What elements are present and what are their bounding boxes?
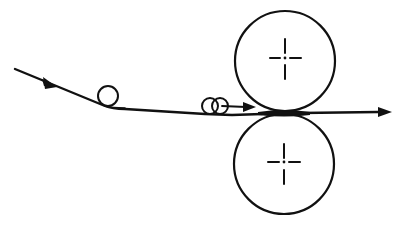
outlet-arrow-icon <box>378 107 392 117</box>
roller-feed-diagram <box>0 0 405 229</box>
guide-roller <box>98 86 118 106</box>
upper-main-roller <box>235 11 335 111</box>
crosshair-icon <box>270 39 301 79</box>
crosshair-icon <box>268 144 300 184</box>
lower-main-roller <box>234 114 334 214</box>
inlet-arrow-icon <box>42 77 57 89</box>
